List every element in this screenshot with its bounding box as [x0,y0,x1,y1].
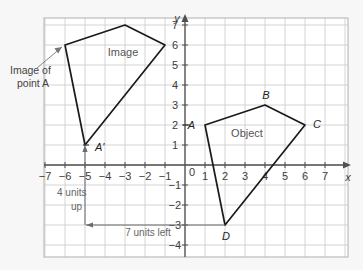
four-units-up-label-line2: up [71,201,83,212]
y-tick-3: 3 [172,99,178,111]
point-label-d: D [222,230,230,242]
point-label-b: B [262,89,269,101]
four-units-up-label-line1: 4 units [57,187,86,198]
x-tick--4: −4 [99,170,112,182]
y-tick-2: 2 [172,119,178,131]
x-tick-5: 5 [282,170,288,182]
x-tick-3: 3 [242,170,248,182]
point-label-a-prime: A' [94,141,105,153]
y-tick-6: 6 [172,39,178,51]
x-tick--7: −7 [39,170,52,182]
y-tick--2: −2 [168,199,181,211]
x-tick-1: 1 [202,170,208,182]
x-tick--3: −3 [119,170,132,182]
y-tick--1: −1 [168,179,181,191]
x-tick--2: −2 [139,170,152,182]
y-tick-1: 1 [172,139,178,151]
x-tick--6: −6 [59,170,72,182]
point-label-a: A [187,119,195,131]
coordinate-plane-svg: −7 −6 −5 −4 −3 −2 −1 1 2 3 4 5 6 7 7 6 5… [0,0,363,270]
image-label: Image [108,46,139,58]
x-tick-6: 6 [302,170,308,182]
callout-text-line1: Image of [10,64,51,76]
seven-units-left-label: 7 units left [125,227,171,238]
x-tick-2: 2 [222,170,228,182]
coordinate-plane-figure: −7 −6 −5 −4 −3 −2 −1 1 2 3 4 5 6 7 7 6 5… [0,0,363,270]
origin-label: 0 [189,166,195,178]
y-tick-4: 4 [172,79,178,91]
y-tick-5: 5 [172,59,178,71]
x-tick-7: 7 [322,170,328,182]
point-label-c: C [313,118,321,130]
plot-area-background [44,18,348,257]
x-axis-label: x [344,171,351,183]
object-label: Object [231,127,263,139]
callout-text-line2: point A [17,77,49,89]
y-tick--4: −4 [168,239,181,251]
